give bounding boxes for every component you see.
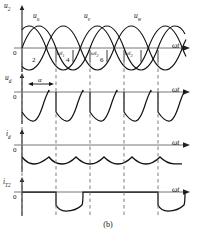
alpha-arrow-right xyxy=(49,82,54,86)
u2-axis-label: u2 xyxy=(4,2,10,12)
id-x-arrow xyxy=(183,142,190,148)
curve-label-u-v: uv xyxy=(84,12,90,22)
iT2-axis-label: iT2 xyxy=(3,178,11,188)
time-mark-wt3: ωt3 xyxy=(125,50,133,58)
u2-y-arrow xyxy=(20,5,25,10)
id-x-axis-label: ωt xyxy=(172,139,179,147)
firing-angle-label: α xyxy=(38,76,42,84)
iT2-origin-label: 0 xyxy=(13,193,17,201)
curve-label-u-w: uw xyxy=(134,12,141,22)
id-axis-label: id xyxy=(6,130,11,140)
figure-caption: (b) xyxy=(0,220,216,229)
pulse-iT2-2 xyxy=(90,192,185,211)
ud-axis-label: ud xyxy=(5,74,11,84)
ud-x-axis-label: ωt xyxy=(172,86,179,94)
iT2-x-axis-label: ωt xyxy=(172,186,179,194)
time-mark-wt2: ωt2 xyxy=(91,50,99,58)
device-number-6: 6 xyxy=(100,56,104,64)
ud-origin-label: 0 xyxy=(13,93,17,101)
device-number-2: 2 xyxy=(32,56,36,64)
curve-ud xyxy=(22,90,185,121)
curve-label-u-u: uu xyxy=(33,12,39,22)
alpha-arrow-left xyxy=(28,82,33,86)
figure-container: u2 0 ωt uu uv uw ωt1 ωt2 ωt3 2 4 6 ud 0 … xyxy=(0,0,216,237)
id-origin-label: 0 xyxy=(13,146,17,154)
waveform-diagram xyxy=(0,0,216,237)
iT2-x-arrow xyxy=(183,189,190,195)
u2-x-arrow xyxy=(183,45,190,51)
u2-x-axis-label: ωt xyxy=(172,42,179,50)
time-mark-wt1: ωt1 xyxy=(57,50,65,58)
alignment-guides xyxy=(22,62,158,216)
u2-origin-label: 0 xyxy=(13,49,17,57)
device-number-4: 4 xyxy=(66,56,70,64)
